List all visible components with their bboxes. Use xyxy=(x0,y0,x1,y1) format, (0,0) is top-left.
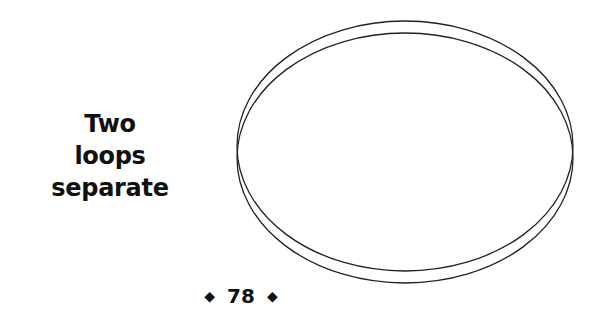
diamond-icon: ◆ xyxy=(267,289,278,303)
page-number: 78 xyxy=(227,284,255,308)
diamond-icon: ◆ xyxy=(204,289,215,303)
two-loops-figure xyxy=(0,0,596,315)
loop-lower xyxy=(237,33,573,283)
page-footer: ◆ 78 ◆ xyxy=(196,284,286,308)
loop-upper xyxy=(237,21,573,271)
